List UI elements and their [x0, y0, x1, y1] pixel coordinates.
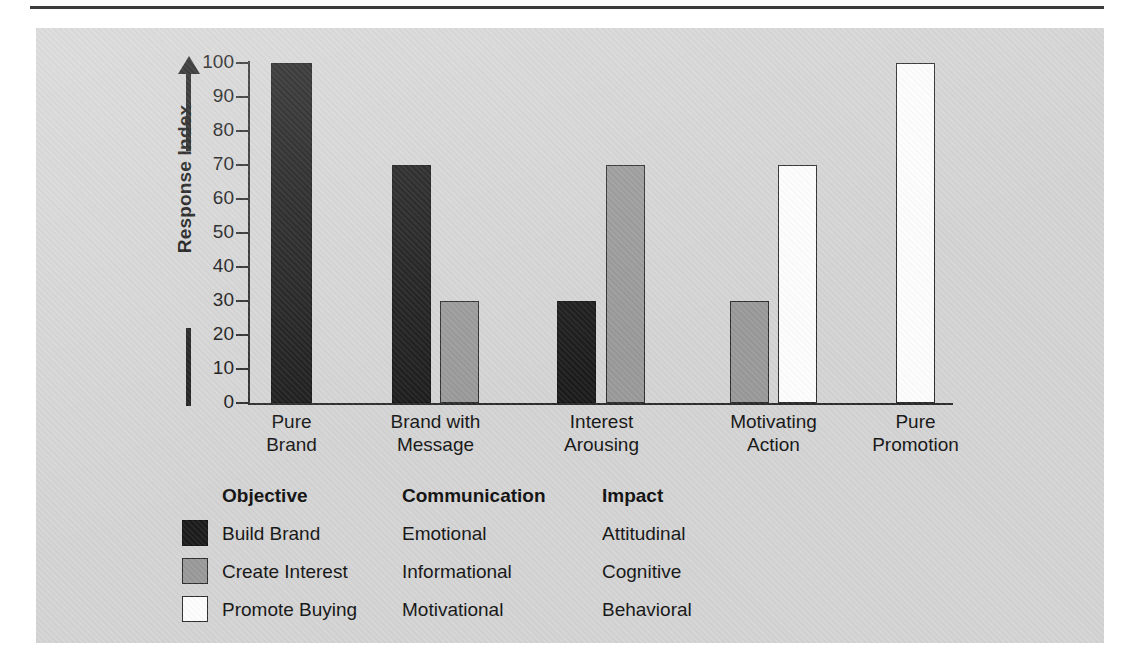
y-axis-tick-label-wrap: 60 [186, 199, 234, 200]
y-axis-tick-label: 50 [196, 222, 234, 241]
y-axis-tick-label-wrap: 40 [186, 267, 234, 268]
x-axis-category-label: PurePromotion [821, 410, 1011, 456]
legend-column-header: Objective [222, 485, 308, 507]
legend-column-header: Communication [402, 485, 546, 507]
y-axis-tick-label-wrap: 50 [186, 233, 234, 234]
legend-cell: Cognitive [602, 561, 681, 583]
legend-cell: Behavioral [602, 599, 692, 621]
bar [606, 165, 645, 403]
x-axis-category-label: InterestArousing [507, 410, 697, 456]
y-axis-tick-label: 30 [196, 290, 234, 309]
y-axis-tick-label-wrap: 0 [186, 403, 234, 404]
x-axis-line [248, 403, 953, 405]
y-axis-tick-label-wrap: 90 [186, 97, 234, 98]
y-axis-tick-label-wrap: 30 [186, 301, 234, 302]
x-axis-category-label-line: Brand with [341, 410, 531, 433]
bar [778, 165, 817, 403]
legend-cell: Motivational [402, 599, 503, 621]
y-axis-tick-label: 10 [196, 358, 234, 377]
bars-layer [248, 63, 953, 403]
y-axis-tick-label-wrap: 80 [186, 131, 234, 132]
y-axis-tick-label-wrap: 20 [186, 335, 234, 336]
y-axis-tick-label: 40 [196, 256, 234, 275]
y-axis-tick-label: 60 [196, 188, 234, 207]
y-axis-tick-label: 70 [196, 154, 234, 173]
y-axis-tick-label: 100 [196, 52, 234, 71]
x-axis-category-label-line: Promotion [821, 433, 1011, 456]
legend-cell: Attitudinal [602, 523, 685, 545]
y-axis-tick-label: 80 [196, 120, 234, 139]
legend-cell: Promote Buying [222, 599, 357, 621]
figure-panel: Response Index 0102030405060708090100 Pu… [36, 28, 1104, 643]
bar [392, 165, 431, 403]
x-axis-category-label-line: Arousing [507, 433, 697, 456]
y-axis-tick-label-wrap: 10 [186, 369, 234, 370]
legend-cell: Build Brand [222, 523, 320, 545]
legend-column-header: Impact [602, 485, 663, 507]
y-axis-tick-label: 90 [196, 86, 234, 105]
bar [271, 63, 312, 403]
bar [557, 301, 596, 403]
legend-cell: Emotional [402, 523, 487, 545]
legend-swatch [182, 558, 208, 584]
top-horizontal-rule [30, 6, 1104, 9]
x-axis-category-label-line: Pure [821, 410, 1011, 433]
legend: ObjectiveCommunicationImpactBuild BrandE… [36, 483, 1104, 633]
bar [896, 63, 935, 403]
y-axis-tick-label-wrap: 100 [186, 63, 234, 64]
y-axis-tick-label-wrap: 70 [186, 165, 234, 166]
x-axis-category-label-line: Interest [507, 410, 697, 433]
x-axis-category-label: Brand withMessage [341, 410, 531, 456]
legend-cell: Create Interest [222, 561, 348, 583]
y-axis-tick-label: 20 [196, 324, 234, 343]
bar [440, 301, 479, 403]
y-axis-tick-label: 0 [196, 392, 234, 411]
legend-swatch [182, 520, 208, 546]
legend-swatch [182, 596, 208, 622]
bar [730, 301, 769, 403]
x-axis-category-label-line: Message [341, 433, 531, 456]
legend-cell: Informational [402, 561, 512, 583]
axis-tail-line [186, 328, 191, 406]
